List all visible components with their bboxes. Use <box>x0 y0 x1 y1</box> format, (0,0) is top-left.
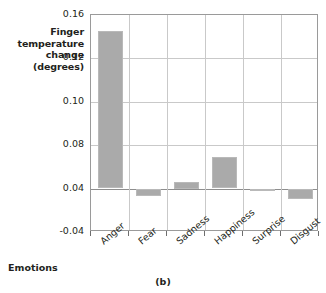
bar-happiness <box>212 157 237 188</box>
y-axis-tick-label: 0.10 <box>40 96 84 106</box>
gridline-horizontal <box>91 145 317 146</box>
gridline-horizontal <box>91 58 317 59</box>
y-axis-tick-label: 0.12 <box>40 52 84 62</box>
y-axis-tick-label: -0.04 <box>40 226 84 236</box>
x-axis-tick-mark <box>90 231 91 236</box>
gridline-vertical <box>281 15 282 230</box>
bar-surprise <box>250 189 275 191</box>
y-axis-tick-label: 0.16 <box>40 9 84 19</box>
baseline-zero <box>91 189 317 190</box>
gridline-vertical <box>129 15 130 230</box>
gridline-vertical <box>205 15 206 230</box>
figure-caption: (b) <box>0 276 326 287</box>
x-axis-tick-mark <box>318 231 319 236</box>
bar-sadness <box>174 182 199 189</box>
x-axis-tick-mark <box>280 231 281 236</box>
gridline-horizontal <box>91 102 317 103</box>
x-axis-tick-mark <box>204 231 205 236</box>
x-axis-tick-mark <box>128 231 129 236</box>
x-axis-tick-mark <box>166 231 167 236</box>
gridline-vertical <box>167 15 168 230</box>
x-axis-tick-mark <box>242 231 243 236</box>
y-axis-tick-label: 0.08 <box>40 139 84 149</box>
gridline-vertical <box>243 15 244 230</box>
bar-disgust <box>288 189 313 199</box>
y-axis-tick-label: 0.04 <box>40 183 84 193</box>
y-axis-tick-labels: 0.160.120.100.080.04-0.04 <box>40 0 84 293</box>
figure-panel-b: Finger temperature change (degrees) 0.16… <box>0 0 326 293</box>
plot-area <box>90 14 318 231</box>
bar-anger <box>98 31 123 188</box>
x-axis-title: Emotions <box>8 262 58 273</box>
bar-fear <box>136 189 161 196</box>
